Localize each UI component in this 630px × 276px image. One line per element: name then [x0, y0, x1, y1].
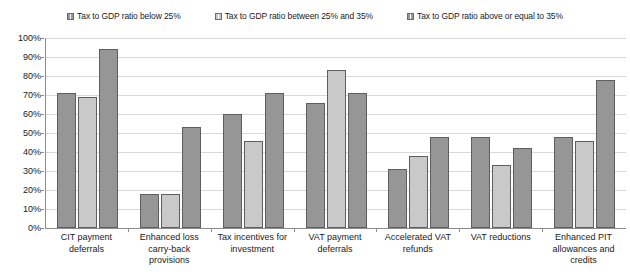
- bar[interactable]: [57, 93, 76, 228]
- chart-legend: Tax to GDP ratio below 25% Tax to GDP ra…: [0, 8, 630, 24]
- bar[interactable]: [409, 156, 428, 228]
- bar[interactable]: [554, 137, 573, 228]
- y-axis-tick-label: 20%: [23, 185, 41, 195]
- legend-label: Tax to GDP ratio below 25%: [77, 11, 181, 21]
- x-axis-category-label: VAT payment deferrals: [294, 232, 377, 276]
- bar-group: [46, 38, 129, 228]
- x-axis-category-label: Enhanced loss carry-back provisions: [128, 232, 211, 276]
- y-axis-tick-mark: [41, 209, 44, 210]
- y-axis-tick-label: 40%: [23, 147, 41, 157]
- x-axis-category-label: CIT payment deferrals: [45, 232, 128, 276]
- bar-group: [212, 38, 295, 228]
- x-axis-category-label: Accelerated VAT refunds: [376, 232, 459, 276]
- y-axis-tick-label: 90%: [23, 52, 41, 62]
- legend-item-series-2: Tax to GDP ratio between 25% and 35%: [215, 11, 373, 21]
- legend-label: Tax to GDP ratio between 25% and 35%: [225, 11, 373, 21]
- bar[interactable]: [140, 194, 159, 228]
- plot-wrapper: [45, 38, 625, 228]
- bar[interactable]: [78, 97, 97, 228]
- y-axis-tick-label: 30%: [23, 166, 41, 176]
- legend-swatch-icon: [407, 13, 414, 20]
- bar[interactable]: [161, 194, 180, 228]
- y-axis-tick-label: 10%: [23, 204, 41, 214]
- y-axis-tick-mark: [41, 190, 44, 191]
- bar[interactable]: [492, 165, 511, 228]
- y-axis-tick-label: 60%: [23, 109, 41, 119]
- y-axis-tick-mark: [41, 114, 44, 115]
- y-axis-tick-label: 0%: [28, 223, 41, 233]
- bar-group: [129, 38, 212, 228]
- legend-swatch-icon: [215, 13, 222, 20]
- legend-item-series-3: Tax to GDP ratio above or equal to 35%: [407, 11, 563, 21]
- y-axis-tick-mark: [41, 133, 44, 134]
- y-axis-tick-mark: [41, 76, 44, 77]
- legend-item-series-1: Tax to GDP ratio below 25%: [67, 11, 181, 21]
- x-axis-category-label: VAT reductions: [459, 232, 542, 276]
- bar[interactable]: [575, 141, 594, 228]
- bar[interactable]: [596, 80, 615, 228]
- bar-group: [543, 38, 626, 228]
- x-axis-labels: CIT payment deferralsEnhanced loss carry…: [45, 232, 625, 276]
- y-axis-tick-label: 100%: [18, 33, 41, 43]
- y-axis-tick-label: 70%: [23, 90, 41, 100]
- y-axis-tick-mark: [41, 57, 44, 58]
- bar-groups: [46, 38, 626, 228]
- bar-group: [295, 38, 378, 228]
- bar[interactable]: [348, 93, 367, 228]
- y-axis-tick-mark: [41, 171, 44, 172]
- y-axis-tick-label: 80%: [23, 71, 41, 81]
- bar[interactable]: [388, 169, 407, 228]
- bar-group: [460, 38, 543, 228]
- y-axis-tick-label: 50%: [23, 128, 41, 138]
- grouped-bar-chart: Tax to GDP ratio below 25% Tax to GDP ra…: [0, 0, 630, 276]
- y-axis-tick-mark: [41, 95, 44, 96]
- legend-swatch-icon: [67, 13, 74, 20]
- x-axis-category-label: Enhanced PIT allowances and credits: [542, 232, 625, 276]
- bar[interactable]: [306, 103, 325, 228]
- plot-area: [45, 38, 626, 229]
- bar[interactable]: [223, 114, 242, 228]
- bar[interactable]: [327, 70, 346, 228]
- x-axis-category-label: Tax incentives for investment: [211, 232, 294, 276]
- legend-label: Tax to GDP ratio above or equal to 35%: [417, 11, 563, 21]
- y-axis-tick-mark: [41, 152, 44, 153]
- bar-group: [377, 38, 460, 228]
- y-axis-tick-mark: [41, 228, 44, 229]
- bar[interactable]: [244, 141, 263, 228]
- y-axis-tick-mark: [41, 38, 44, 39]
- bar[interactable]: [99, 49, 118, 228]
- y-axis: 100%90%80%70%60%50%40%30%20%10%0%: [0, 38, 41, 228]
- bar[interactable]: [430, 137, 449, 228]
- bar[interactable]: [265, 93, 284, 228]
- bar[interactable]: [513, 148, 532, 228]
- bar[interactable]: [182, 127, 201, 228]
- bar[interactable]: [471, 137, 490, 228]
